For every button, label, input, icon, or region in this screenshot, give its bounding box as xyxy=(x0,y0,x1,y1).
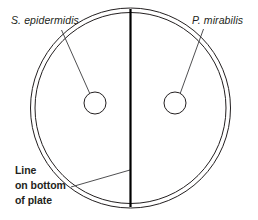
left-colony-circle xyxy=(84,92,106,114)
petri-dish-diagram: S. epidermidis P. mirabilis Line on bott… xyxy=(0,0,258,220)
right-colony-circle xyxy=(164,92,186,114)
note-label-line-3: of plate xyxy=(15,194,52,206)
note-label-line-2: on bottom xyxy=(15,179,66,191)
note-leader-line xyxy=(71,170,130,187)
right-species-leader-line xyxy=(180,29,204,94)
right-species-label: P. mirabilis xyxy=(192,14,244,26)
left-species-leader-line xyxy=(62,30,91,94)
left-species-label: S. epidermidis xyxy=(11,14,80,26)
diagram-canvas: S. epidermidis P. mirabilis Line on bott… xyxy=(0,0,258,220)
note-label-line-1: Line xyxy=(15,164,37,176)
